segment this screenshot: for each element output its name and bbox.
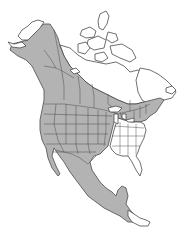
north-america-map	[0, 0, 185, 235]
central-america-south	[128, 210, 150, 226]
range-map	[0, 0, 185, 235]
arctic-islands	[78, 11, 136, 62]
